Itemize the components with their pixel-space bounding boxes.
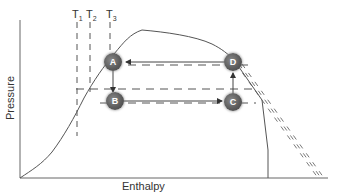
- isotherm-t3-label: T3: [106, 8, 117, 22]
- pressure-enthalpy-diagram: [0, 0, 337, 196]
- state-node-b: B: [106, 92, 124, 110]
- state-node-d: D: [224, 53, 242, 71]
- state-node-a: A: [104, 53, 122, 71]
- state-node-c: C: [224, 93, 242, 111]
- y-axis-label: Pressure: [4, 76, 16, 120]
- isotherm-t1-label: T1: [72, 8, 83, 22]
- isotherm-t2-label: T2: [86, 8, 97, 22]
- x-axis-label: Enthalpy: [122, 180, 165, 192]
